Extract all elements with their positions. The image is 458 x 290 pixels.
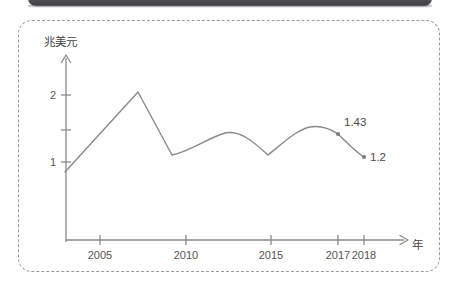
x-tick-label-2017: 2017: [326, 249, 350, 261]
x-tick-label-2010: 2010: [174, 249, 198, 261]
annotation-label-1-2: 1.2: [370, 151, 386, 163]
y-axis-title: 兆美元: [44, 35, 78, 48]
x-axis: 2005 2010 2015 2017 2018 年: [66, 235, 423, 261]
data-point-2017: [336, 132, 340, 136]
x-tick-label-2018: 2018: [352, 249, 376, 261]
data-series: [65, 92, 366, 172]
data-line-path: [65, 92, 364, 172]
top-chrome-bar-shadow: [28, 5, 432, 8]
y-tick-label-2: 2: [50, 89, 56, 101]
y-tick-label-1: 1: [50, 156, 56, 168]
annotation-label-1-43: 1.43: [344, 116, 366, 128]
x-tick-label-2005: 2005: [88, 249, 112, 261]
data-point-2018: [362, 155, 366, 159]
x-tick-label-2015: 2015: [259, 249, 283, 261]
y-axis: 2 1 兆美元: [44, 35, 78, 242]
line-chart: 2 1 兆美元 2005 2010 2015 2017 2018 年 1.43 …: [18, 20, 440, 272]
x-axis-title: 年: [412, 238, 423, 251]
